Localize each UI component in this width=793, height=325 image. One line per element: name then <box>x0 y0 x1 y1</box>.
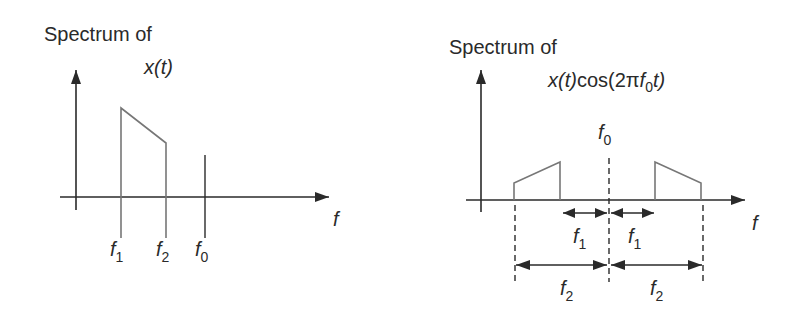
right-f1-right-label: f1 <box>628 225 642 252</box>
right-panel: Spectrum of x(t)cos(2πf0t) f0 f1 f1 f2 f… <box>449 36 760 304</box>
left-x-axis-label: f <box>333 208 341 230</box>
left-panel: Spectrum of x(t) f f1 f2 f0 <box>44 23 341 265</box>
left-spectrum-shape <box>121 108 166 238</box>
right-x-axis-label: f <box>752 212 760 234</box>
right-title-line1: Spectrum of <box>449 36 557 58</box>
right-upper-sideband <box>655 162 701 200</box>
right-title-line2: x(t)cos(2πf0t) <box>547 69 665 95</box>
right-f2-right-label: f2 <box>650 277 664 304</box>
right-center-f0-label: f0 <box>598 121 612 148</box>
left-tick-f1: f1 <box>110 238 124 265</box>
right-lower-sideband <box>514 162 560 200</box>
right-f1-left-label: f1 <box>573 225 587 252</box>
left-tick-f2: f2 <box>156 238 170 265</box>
left-title-line2: x(t) <box>143 56 173 78</box>
spectrum-diagram: Spectrum of x(t) f f1 f2 f0 Spectrum of … <box>0 0 793 325</box>
left-title-line1: Spectrum of <box>44 23 152 45</box>
left-tick-f0: f0 <box>195 238 209 265</box>
right-f2-left-label: f2 <box>560 277 574 304</box>
